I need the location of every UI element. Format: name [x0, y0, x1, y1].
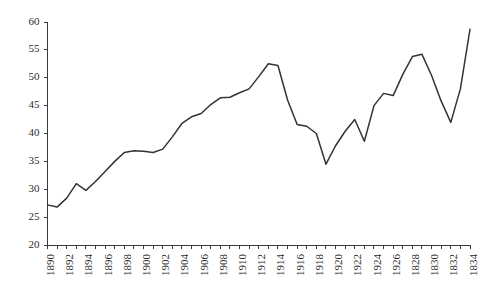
y-tick-label: 50: [29, 70, 41, 82]
x-tick-label: 1832: [447, 254, 459, 276]
y-tick-label: 45: [29, 98, 41, 110]
x-tick-label: 1892: [63, 254, 75, 276]
x-tick-label: 1912: [255, 254, 267, 276]
y-tick-label: 40: [29, 126, 41, 138]
x-tick-label: 1916: [294, 254, 306, 277]
x-tick-label: 1902: [159, 254, 171, 276]
y-tick-label: 20: [29, 238, 41, 250]
x-tick-label: 1924: [371, 254, 383, 277]
y-tick-label: 30: [29, 182, 41, 194]
y-axis: 202530354045505560: [29, 15, 48, 250]
x-tick-label: 1922: [351, 254, 363, 276]
x-tick-label: 1914: [274, 254, 286, 277]
x-tick-label: 1918: [313, 254, 325, 277]
y-tick-label: 25: [29, 210, 41, 222]
y-tick-label: 55: [29, 42, 41, 54]
series-line: [48, 29, 471, 207]
x-tick-label: 1834: [467, 254, 479, 277]
x-tick-label: 1828: [409, 254, 421, 277]
line-chart-figure: 202530354045505560 189018921894189618981…: [0, 0, 491, 297]
x-tick-label: 1906: [198, 254, 210, 277]
y-tick-label: 60: [29, 15, 41, 27]
x-tick-label: 1908: [217, 254, 229, 277]
x-tick-label: 1926: [390, 254, 402, 277]
x-tick-label: 1920: [332, 254, 344, 277]
x-tick-label: 1910: [236, 254, 248, 277]
x-tick-label: 1896: [102, 254, 114, 277]
x-tick-label: 1890: [44, 254, 56, 277]
data-series: [48, 29, 471, 207]
x-tick-label: 1904: [178, 254, 190, 277]
chart-canvas: 202530354045505560 189018921894189618981…: [0, 0, 491, 297]
y-tick-label: 35: [29, 154, 41, 166]
x-tick-label: 1898: [121, 254, 133, 277]
x-tick-label: 1900: [140, 254, 152, 277]
x-tick-label: 1830: [428, 254, 440, 277]
x-axis: 1890189218941896189819001902190419061908…: [44, 245, 479, 276]
x-tick-label: 1894: [82, 254, 94, 277]
